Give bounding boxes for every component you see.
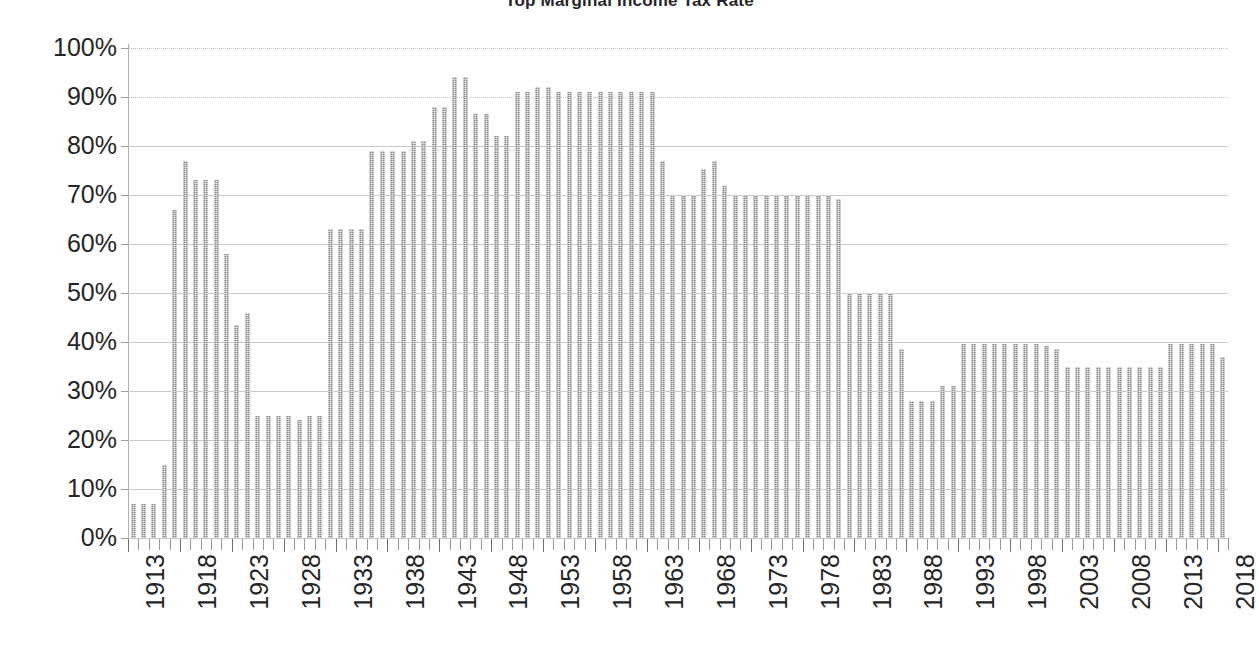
bar [1044, 346, 1049, 538]
bar [266, 416, 271, 539]
bar [971, 344, 976, 538]
x-tick-mark [263, 539, 264, 550]
x-tick-mark [273, 539, 274, 550]
x-tick-mark [605, 539, 606, 550]
x-tick-mark [1155, 539, 1156, 550]
bar [203, 180, 208, 538]
x-tick-mark [211, 539, 212, 550]
bar [1054, 349, 1059, 538]
x-tick-mark [502, 539, 503, 550]
bar [473, 114, 478, 538]
bar [1220, 357, 1225, 538]
bar [525, 92, 530, 538]
x-tick-mark [979, 539, 980, 550]
x-tick-mark [304, 539, 305, 550]
bar [784, 195, 789, 538]
y-tick-mark [121, 244, 128, 245]
x-tick-mark [377, 539, 378, 550]
bar [515, 92, 520, 538]
bar [1034, 344, 1039, 538]
bar [214, 180, 219, 538]
x-tick-mark [574, 539, 575, 550]
x-tick-mark [844, 539, 845, 550]
x-tick-mark [190, 539, 191, 550]
bar [1210, 344, 1215, 538]
x-tick-label: 1953 [558, 554, 583, 610]
y-tick-label: 40% [7, 329, 117, 354]
x-tick-mark [989, 539, 990, 550]
bar [681, 195, 686, 538]
x-tick-mark [854, 539, 855, 552]
x-tick-mark [678, 539, 679, 550]
x-tick-mark [1124, 539, 1125, 550]
bar [1096, 367, 1101, 539]
bar [1189, 344, 1194, 538]
bar [349, 229, 354, 538]
y-tick-label: 30% [7, 378, 117, 403]
x-tick-mark [564, 539, 565, 550]
x-tick-mark [398, 539, 399, 550]
x-tick-mark [865, 539, 866, 550]
bar [535, 87, 540, 538]
x-tick-mark [782, 539, 783, 550]
bar [940, 386, 945, 538]
bar [930, 401, 935, 538]
bar [1137, 367, 1142, 539]
bar [764, 195, 769, 538]
x-tick-mark [709, 539, 710, 550]
x-tick-mark [325, 539, 326, 550]
bar [618, 92, 623, 538]
bar [743, 195, 748, 538]
x-tick-mark [1041, 539, 1042, 550]
bar [899, 349, 904, 538]
x-tick-mark [522, 539, 523, 550]
x-tick-mark [450, 539, 451, 550]
bar [567, 92, 572, 538]
bar [1023, 344, 1028, 538]
x-tick-mark [771, 539, 772, 550]
bar [328, 229, 333, 538]
bar [317, 416, 322, 539]
x-tick-mark [138, 539, 139, 550]
bar [297, 420, 302, 538]
x-tick-mark [470, 539, 471, 550]
x-tick-label: 2003 [1077, 554, 1102, 610]
y-tick-mark [121, 146, 128, 147]
x-tick-mark [937, 539, 938, 550]
x-tick-mark [906, 539, 907, 552]
x-tick-mark [616, 539, 617, 550]
x-tick-mark [875, 539, 876, 550]
x-tick-mark [221, 539, 222, 550]
bar [1200, 344, 1205, 538]
bar [442, 107, 447, 538]
bar [961, 344, 966, 538]
x-tick-mark [533, 539, 534, 550]
y-tick-label: 60% [7, 231, 117, 256]
x-tick-mark [253, 539, 254, 550]
bar [390, 151, 395, 538]
bar [836, 199, 841, 538]
bar [276, 416, 281, 539]
bar [701, 169, 706, 538]
x-tick-mark [242, 539, 243, 550]
x-tick-mark [460, 539, 461, 550]
x-tick-mark [491, 539, 492, 552]
bar [650, 92, 655, 538]
x-tick-mark [927, 539, 928, 550]
x-tick-label: 1913 [143, 554, 168, 610]
x-tick-mark [1083, 539, 1084, 550]
x-tick-mark [180, 539, 181, 552]
y-tick-mark [121, 391, 128, 392]
bar [463, 77, 468, 538]
x-tick-mark [346, 539, 347, 550]
bar [1002, 344, 1007, 538]
x-tick-label: 2008 [1129, 554, 1154, 610]
bar [1158, 367, 1163, 539]
bar [733, 195, 738, 538]
x-tick-label: 1963 [662, 554, 687, 610]
bar [878, 293, 883, 538]
bar [577, 92, 582, 538]
x-tick-label: 1933 [351, 554, 376, 610]
x-tick-mark [1166, 539, 1167, 552]
x-tick-label: 1938 [403, 554, 428, 610]
